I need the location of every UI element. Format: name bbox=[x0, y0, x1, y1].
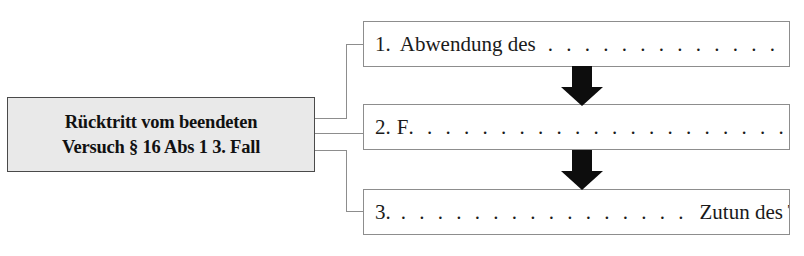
step-3-blank: . . . . . . . . . . . . . . . . bbox=[401, 200, 688, 225]
diagram-canvas: Rücktritt vom beendeten Versuch § 16 Abs… bbox=[0, 0, 804, 256]
arrow-shaft bbox=[572, 66, 592, 88]
step-2-number: 2. bbox=[364, 115, 397, 140]
connector-stub-1 bbox=[315, 118, 347, 119]
connector-riser-3 bbox=[346, 150, 347, 212]
arrow-head bbox=[561, 87, 603, 106]
main-concept-line-1: Rücktritt vom beendeten bbox=[65, 110, 258, 134]
arrow-shaft bbox=[572, 150, 592, 172]
connector-stub-3 bbox=[315, 150, 347, 151]
step-2-blank: . . . . . . . . . . . . . . . . . . . . … bbox=[408, 115, 790, 140]
connector-arm-2 bbox=[315, 133, 363, 134]
connector-arm-1 bbox=[346, 44, 364, 45]
step-box-3: 3. . . . . . . . . . . . . . . . . Zutun… bbox=[363, 189, 790, 235]
down-arrow-icon-2 bbox=[561, 150, 603, 190]
step-1-text: Abwendung des bbox=[400, 32, 548, 57]
main-concept-line-2: Versuch § 16 Abs 1 3. Fall bbox=[62, 135, 260, 159]
connector-arm-3 bbox=[346, 211, 364, 212]
step-box-2: 2. F . . . . . . . . . . . . . . . . . .… bbox=[363, 104, 790, 150]
arrow-head bbox=[561, 171, 603, 190]
main-concept-box: Rücktritt vom beendeten Versuch § 16 Abs… bbox=[7, 97, 315, 172]
step-2-text: F bbox=[397, 115, 409, 140]
step-3-number: 3. bbox=[364, 200, 401, 225]
step-1-number: 1. bbox=[364, 32, 400, 57]
down-arrow-icon-1 bbox=[561, 66, 603, 106]
step-box-1: 1. Abwendung des . . . . . . . . . . . .… bbox=[363, 21, 790, 67]
connector-riser-1 bbox=[346, 44, 347, 119]
step-1-blank: . . . . . . . . . . . . . . . . bbox=[548, 32, 790, 57]
step-3-text: Zutun des Täters bbox=[688, 200, 791, 225]
